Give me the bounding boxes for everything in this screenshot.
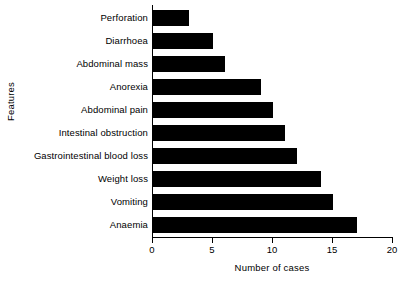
- bar: [153, 102, 273, 118]
- bar: [153, 217, 357, 233]
- bar-chart: Features PerforationDiarrhoeaAbdominal m…: [0, 0, 408, 283]
- bar: [153, 10, 189, 26]
- bar: [153, 148, 297, 164]
- x-tick-label: 20: [377, 244, 407, 255]
- category-label: Anaemia: [14, 220, 148, 230]
- x-axis-ticks: 05101520: [152, 238, 397, 262]
- x-tick-mark: [212, 238, 213, 243]
- y-axis-tick-labels: PerforationDiarrhoeaAbdominal massAnorex…: [14, 5, 148, 238]
- bar: [153, 125, 285, 141]
- category-label: Abdominal pain: [14, 105, 148, 115]
- plot-area: [152, 5, 392, 238]
- bar: [153, 33, 213, 49]
- x-tick-mark: [152, 238, 153, 243]
- x-tick-label: 15: [317, 244, 347, 255]
- x-tick-label: 0: [137, 244, 167, 255]
- x-tick-label: 10: [257, 244, 287, 255]
- category-label: Anorexia: [14, 82, 148, 92]
- category-label: Abdominal mass: [14, 59, 148, 69]
- category-label: Perforation: [14, 13, 148, 23]
- bar: [153, 79, 261, 95]
- x-tick-mark: [392, 238, 393, 243]
- x-tick-mark: [272, 238, 273, 243]
- bar: [153, 171, 321, 187]
- x-tick-mark: [332, 238, 333, 243]
- bar: [153, 194, 333, 210]
- bar: [153, 56, 225, 72]
- category-label: Intestinal obstruction: [14, 128, 148, 138]
- category-label: Gastrointestinal blood loss: [14, 151, 148, 161]
- category-label: Diarrhoea: [14, 36, 148, 46]
- x-axis-title: Number of cases: [152, 262, 392, 273]
- x-tick-label: 5: [197, 244, 227, 255]
- category-label: Vomiting: [14, 197, 148, 207]
- category-label: Weight loss: [14, 174, 148, 184]
